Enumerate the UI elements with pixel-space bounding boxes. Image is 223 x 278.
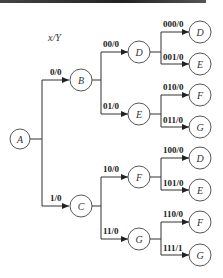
edge-label: 00/0 bbox=[103, 39, 120, 49]
edge-label: 100/0 bbox=[163, 145, 184, 155]
leaf-node-e: E bbox=[189, 179, 211, 201]
leaf-node-d: D bbox=[189, 147, 211, 169]
node-g: G bbox=[128, 228, 150, 250]
edge-label: 000/0 bbox=[163, 19, 184, 29]
svg-text:D: D bbox=[134, 47, 143, 58]
leaf-node-g: G bbox=[189, 244, 211, 266]
leaf-node-e: E bbox=[189, 53, 211, 75]
svg-text:A: A bbox=[16, 134, 24, 145]
node-root-a: A bbox=[10, 129, 30, 149]
leaf-node-f: F bbox=[189, 211, 211, 233]
edge-label: 1/0 bbox=[50, 193, 62, 203]
edge-label: 11/0 bbox=[103, 226, 119, 236]
svg-text:F: F bbox=[196, 90, 204, 101]
svg-text:G: G bbox=[135, 234, 142, 245]
edge-label: 101/0 bbox=[163, 178, 184, 188]
svg-text:G: G bbox=[196, 250, 203, 261]
svg-text:D: D bbox=[195, 153, 204, 164]
svg-text:D: D bbox=[195, 27, 204, 38]
svg-text:F: F bbox=[135, 172, 143, 183]
edge-a-trunk bbox=[30, 80, 42, 206]
edge-label: 0/0 bbox=[50, 67, 62, 77]
svg-text:E: E bbox=[196, 185, 203, 196]
edge-label: 110/0 bbox=[163, 209, 184, 219]
edge-label: 011/0 bbox=[163, 115, 184, 125]
edge-label: 001/0 bbox=[163, 52, 184, 62]
leaf-node-d: D bbox=[189, 21, 211, 43]
node-c: C bbox=[70, 195, 92, 217]
svg-text:E: E bbox=[135, 109, 142, 120]
leaf-node-f: F bbox=[189, 84, 211, 106]
svg-text:F: F bbox=[196, 217, 204, 228]
header-label: x/Y bbox=[47, 32, 62, 43]
node-b: B bbox=[70, 69, 92, 91]
state-tree-diagram: x/Y A 0/0 1/0 B C 00/0 01/0 10/0 11/0 D … bbox=[0, 0, 223, 278]
edge-label: 10/0 bbox=[103, 164, 120, 174]
leaf-node-g: G bbox=[189, 116, 211, 138]
edge-label: 111/1 bbox=[163, 243, 183, 253]
node-e: E bbox=[128, 103, 150, 125]
svg-text:E: E bbox=[196, 59, 203, 70]
edge-label: 010/0 bbox=[163, 82, 184, 92]
svg-text:C: C bbox=[78, 201, 85, 212]
edge-label: 01/0 bbox=[103, 101, 120, 111]
svg-text:B: B bbox=[78, 75, 84, 86]
svg-text:G: G bbox=[196, 122, 203, 133]
node-f: F bbox=[128, 166, 150, 188]
node-d: D bbox=[128, 41, 150, 63]
